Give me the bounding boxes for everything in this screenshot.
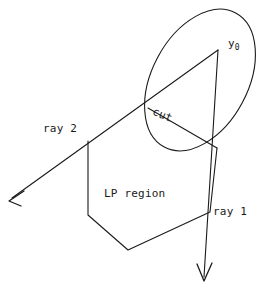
label-ray-1: ray 1 <box>213 206 247 218</box>
ray-1-line <box>204 50 218 277</box>
label-ray-2: ray 2 <box>43 123 77 135</box>
ellipse-outline <box>122 0 273 170</box>
label-y-zero-base: y <box>228 37 235 50</box>
label-lp-region: LP region <box>104 188 165 200</box>
ray-2-arrowhead-icon <box>9 191 24 206</box>
figure-container: y0 cut ray 2 ray 1 LP region <box>0 0 273 292</box>
label-y-zero-subscript: 0 <box>235 43 240 52</box>
label-y-zero: y0 <box>228 38 240 54</box>
